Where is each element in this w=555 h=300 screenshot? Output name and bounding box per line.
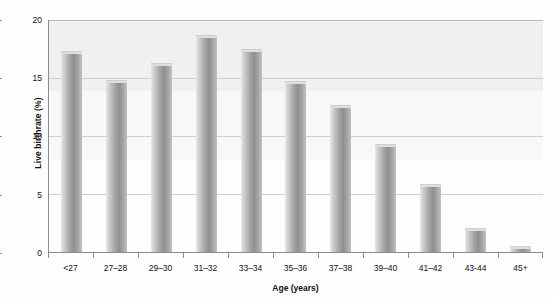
- bar: [375, 144, 396, 252]
- y-tick-label: 15: [2, 73, 42, 83]
- x-tick-label: 35–36: [273, 263, 318, 273]
- x-tick-label: 33–34: [228, 263, 273, 273]
- x-tick: 43-44: [453, 253, 498, 283]
- x-tick-label: 31–32: [183, 263, 228, 273]
- bar: [61, 51, 82, 252]
- bar-slot: [453, 20, 498, 252]
- bar-slot: [498, 20, 543, 252]
- x-tick-mark: [363, 253, 364, 258]
- bar: [285, 81, 306, 252]
- x-tick: 29–30: [138, 253, 183, 283]
- bar-chart: Live birthrate (%): [0, 0, 555, 300]
- x-tick-mark: [138, 253, 139, 258]
- x-tick: 33–34: [228, 253, 273, 283]
- x-tick-label: 45+: [498, 263, 543, 273]
- x-tick-mark: [318, 253, 319, 258]
- bar-series: [49, 20, 543, 252]
- bar-slot: [318, 20, 363, 252]
- bar: [241, 49, 262, 252]
- x-tick-mark: [93, 253, 94, 258]
- x-axis-title: Age (years): [48, 283, 543, 293]
- bar: [196, 35, 217, 252]
- x-tick-label: 39–40: [363, 263, 408, 273]
- y-tick-label: 10: [2, 131, 42, 141]
- bar-slot: [184, 20, 229, 252]
- y-tick-label: 5: [2, 190, 42, 200]
- bar: [465, 228, 486, 252]
- x-tick-label: 27–28: [93, 263, 138, 273]
- x-tick-mark-end: [542, 253, 543, 258]
- x-tick-mark: [453, 253, 454, 258]
- x-tick-mark: [48, 253, 49, 258]
- x-tick-mark: [183, 253, 184, 258]
- x-axis: <27 27–28 29–30 31–32 33–34 35–36 37–38: [48, 253, 543, 283]
- y-tick-label: 20: [2, 15, 42, 25]
- x-tick-label: <27: [48, 263, 93, 273]
- plot-area: [48, 20, 543, 253]
- y-tick-label: 0: [2, 248, 42, 258]
- x-tick-mark: [273, 253, 274, 258]
- x-tick: 39–40: [363, 253, 408, 283]
- x-tick: <27: [48, 253, 93, 283]
- bar-slot: [49, 20, 94, 252]
- x-tick: 37–38: [318, 253, 363, 283]
- x-tick: 27–28: [93, 253, 138, 283]
- bar: [510, 246, 531, 252]
- bar-slot: [94, 20, 139, 252]
- bar-slot: [363, 20, 408, 252]
- x-tick-mark: [498, 253, 499, 258]
- x-tick: 45+: [498, 253, 543, 283]
- x-tick-label: 29–30: [138, 263, 183, 273]
- bar-slot: [229, 20, 274, 252]
- x-tick-label: 43-44: [453, 263, 498, 273]
- bar: [151, 63, 172, 252]
- x-tick-label: 41–42: [408, 263, 453, 273]
- x-tick-label: 37–38: [318, 263, 363, 273]
- bar: [106, 80, 127, 252]
- bar-slot: [274, 20, 319, 252]
- bar-slot: [408, 20, 453, 252]
- x-tick-mark: [408, 253, 409, 258]
- x-tick: 41–42: [408, 253, 453, 283]
- x-tick: 35–36: [273, 253, 318, 283]
- bar: [420, 184, 441, 252]
- x-tick-mark: [228, 253, 229, 258]
- x-tick: 31–32: [183, 253, 228, 283]
- bar-slot: [139, 20, 184, 252]
- bar: [330, 105, 351, 252]
